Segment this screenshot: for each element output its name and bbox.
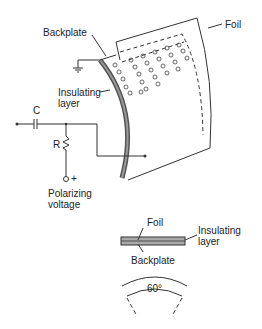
plus-label: + <box>71 173 77 184</box>
microphone-diagram: Backplate Foil Insulating layer C R + Po… <box>0 0 262 329</box>
polarizing-voltage-label-2: voltage <box>48 199 81 210</box>
insulating-layer-label: Insulating <box>58 87 101 98</box>
polarizing-voltage-label: Polarizing <box>48 188 92 199</box>
foil-detail-label: Foil <box>147 217 163 228</box>
insulating-detail-label: Insulating <box>198 225 241 236</box>
angle-label: 60° <box>147 283 162 294</box>
layer-detail <box>121 228 197 252</box>
insulating-detail-label-2: layer <box>198 236 220 247</box>
insulating-layer-label-2: layer <box>58 98 80 109</box>
capacitor-label: C <box>33 105 40 116</box>
curved-backplate <box>100 55 128 178</box>
backplate-label: Backplate <box>43 27 87 38</box>
foil-dashed-edge <box>120 34 203 135</box>
backplate-holes <box>113 43 189 95</box>
resistor-label: R <box>53 139 60 150</box>
foil-label: Foil <box>225 19 241 30</box>
resistor-icon <box>63 136 69 150</box>
backplate-detail-label: Backplate <box>131 255 175 266</box>
ground-symbol <box>73 60 100 72</box>
